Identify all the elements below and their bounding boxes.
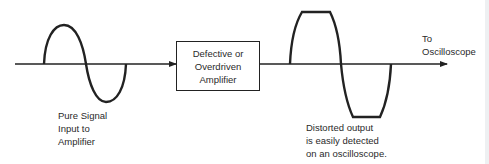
amplifier-label-line-2: Overdriven [195,60,241,73]
destination-caption: To Oscilloscope [422,32,476,58]
destination-line-1: To [422,32,476,45]
input-caption-line-1: Pure Signal [58,109,107,122]
input-caption-line-2: Input to [58,122,107,135]
page-edge-shadow [485,0,489,164]
amplifier-label-line-1: Defective or [193,47,244,60]
output-caption-line-1: Distorted output [306,121,387,134]
input-caption-line-3: Amplifier [58,135,107,148]
amplifier-label-line-3: Amplifier [200,73,237,86]
amplifier-block: Defective or Overdriven Amplifier [176,41,260,91]
input-signal-caption: Pure Signal Input to Amplifier [58,109,107,148]
output-caption-line-2: is easily detected [306,134,387,147]
output-signal-caption: Distorted output is easily detected on a… [306,121,387,160]
destination-line-2: Oscilloscope [422,45,476,58]
output-caption-line-3: on an oscilloscope. [306,147,387,160]
